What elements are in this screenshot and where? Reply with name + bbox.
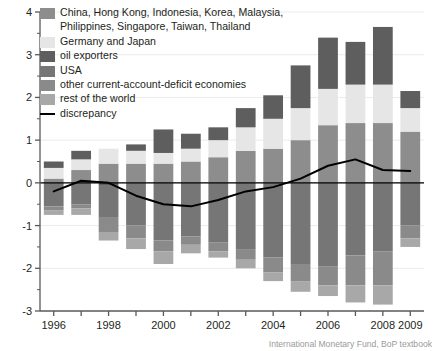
- bar-segment: [208, 183, 228, 243]
- bar-segment: [263, 149, 283, 183]
- x-axis-label: 2004: [261, 319, 285, 331]
- bar-segment: [126, 164, 146, 183]
- legend-label: China, Hong Kong, Indonesia, Korea, Mala…: [60, 6, 283, 33]
- bar-segment: [44, 168, 64, 179]
- bar-segment: [400, 108, 420, 131]
- bar-segment: [71, 151, 91, 160]
- legend-item: oil exporters: [40, 49, 330, 63]
- bar-segment: [99, 164, 119, 183]
- legend-label: Germany and Japan: [60, 35, 156, 49]
- bar-segment: [208, 157, 228, 183]
- legend-color-swatch: [40, 94, 55, 105]
- bar-segment: [181, 149, 201, 162]
- bar-segment: [44, 206, 64, 210]
- bar-segment: [208, 127, 228, 140]
- bar-segment: [263, 273, 283, 282]
- source-credit: International Monetary Fund, BoP textboo…: [269, 339, 432, 349]
- bar-segment: [346, 255, 366, 285]
- legend-item: rest of the world: [40, 92, 330, 106]
- y-axis-label: 2: [26, 91, 32, 103]
- bar-segment: [181, 245, 201, 254]
- bar-segment: [400, 226, 420, 239]
- bar-segment: [400, 238, 420, 247]
- bar-segment: [346, 123, 366, 183]
- bar-segment: [71, 208, 91, 214]
- bar-segment: [154, 153, 174, 164]
- bar-segment: [318, 266, 338, 285]
- x-axis-label: 2006: [316, 319, 340, 331]
- bar-segment: [236, 249, 256, 260]
- legend-label: discrepancy: [60, 107, 117, 121]
- bar-segment: [318, 285, 338, 296]
- bar-segment: [44, 211, 64, 215]
- bar-segment: [346, 285, 366, 302]
- bar-segment: [181, 162, 201, 183]
- bar-segment: [208, 251, 228, 257]
- bar-segment: [263, 119, 283, 149]
- y-axis-label: -3: [22, 305, 32, 317]
- bar-segment: [181, 236, 201, 245]
- legend-label: other current-account-deficit economies: [60, 78, 246, 92]
- bar-segment: [181, 134, 201, 149]
- bar-segment: [71, 204, 91, 208]
- bar-segment: [99, 185, 119, 217]
- legend-item: other current-account-deficit economies: [40, 78, 330, 92]
- y-axis-label: 4: [26, 6, 32, 18]
- bar-segment: [154, 251, 174, 264]
- bar-segment: [318, 183, 338, 266]
- legend-line-marker: [40, 109, 55, 120]
- bar-segment: [154, 241, 174, 252]
- x-axis-label: 1996: [41, 319, 65, 331]
- bar-segment: [263, 258, 283, 273]
- bar-segment: [99, 232, 119, 241]
- chart-container: -3-2-10123419961998200020022004200620082…: [0, 0, 436, 351]
- bar-segment: [126, 226, 146, 239]
- y-axis-label: 1: [26, 134, 32, 146]
- bar-segment: [44, 179, 64, 183]
- bar-segment: [236, 151, 256, 183]
- legend-item: China, Hong Kong, Indonesia, Korea, Mala…: [40, 6, 330, 35]
- bar-segment: [373, 183, 393, 251]
- x-axis-label: 1998: [96, 319, 120, 331]
- bar-segment: [126, 183, 146, 226]
- bar-segment: [44, 183, 64, 206]
- chart-legend: China, Hong Kong, Indonesia, Korea, Mala…: [40, 6, 330, 121]
- bar-segment: [236, 127, 256, 150]
- legend-label: oil exporters: [60, 49, 118, 63]
- bar-segment: [373, 285, 393, 304]
- bar-segment: [236, 260, 256, 269]
- bar-segment: [400, 91, 420, 108]
- bar-segment: [400, 183, 420, 226]
- bar-segment: [346, 183, 366, 256]
- x-axis-label: 2008: [371, 319, 395, 331]
- legend-color-swatch: [40, 8, 55, 19]
- bar-segment: [154, 129, 174, 152]
- bar-segment: [291, 264, 311, 281]
- bar-segment: [318, 125, 338, 183]
- y-axis-label: 3: [26, 49, 32, 61]
- bar-segment: [373, 85, 393, 123]
- bar-segment: [208, 243, 228, 252]
- bar-segment: [400, 132, 420, 183]
- bar-segment: [346, 85, 366, 123]
- legend-color-swatch: [40, 80, 55, 91]
- bar-segment: [291, 281, 311, 292]
- bar-segment: [44, 162, 64, 168]
- bar-segment: [99, 217, 119, 232]
- bar-segment: [373, 27, 393, 85]
- legend-color-swatch: [40, 51, 55, 62]
- x-axis-label: 2002: [206, 319, 230, 331]
- legend-color-swatch: [40, 37, 55, 48]
- bar-segment: [154, 164, 174, 183]
- legend-label: USA: [60, 64, 82, 78]
- bar-segment: [99, 149, 119, 164]
- y-axis-label: -1: [22, 220, 32, 232]
- bar-segment: [181, 183, 201, 236]
- x-axis-label: 2000: [151, 319, 175, 331]
- bar-segment: [71, 159, 91, 170]
- bar-segment: [263, 183, 283, 258]
- y-axis-label: -2: [22, 262, 32, 274]
- legend-item: discrepancy: [40, 107, 330, 121]
- legend-label: rest of the world: [60, 92, 135, 106]
- bar-segment: [126, 151, 146, 164]
